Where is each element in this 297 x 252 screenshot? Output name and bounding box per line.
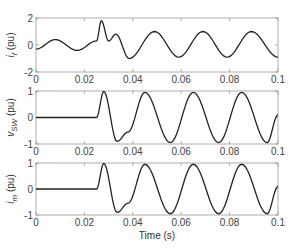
x-tick-label: 0.1 — [271, 146, 285, 157]
x-tick-label: 0.04 — [123, 146, 143, 157]
y-tick-label: 0 — [27, 184, 33, 195]
x-tick-label: 0.02 — [75, 74, 95, 85]
x-tick-label: 0.1 — [271, 217, 285, 228]
y-tick-label: 2 — [27, 13, 33, 24]
data-line — [36, 164, 278, 214]
subplot-3: 00.020.040.060.080.110-1im (pu)Time (s) — [5, 158, 285, 242]
y-tick-label: -2 — [24, 67, 33, 78]
x-tick-label: 0.04 — [123, 74, 143, 85]
y-tick-label: 1 — [27, 86, 33, 97]
data-line — [36, 92, 278, 143]
subplot-2: 00.020.040.060.080.110-1vSW (pu) — [5, 86, 285, 158]
y-tick-label: 1 — [27, 158, 33, 169]
y-axis-label: im (pu) — [5, 174, 19, 203]
x-tick-label: 0.08 — [220, 74, 240, 85]
x-tick-label: 0.06 — [171, 217, 191, 228]
x-tick-label: 0 — [33, 74, 39, 85]
axes-box — [36, 18, 278, 72]
data-line — [36, 21, 278, 59]
x-axis-label: Time (s) — [139, 230, 175, 241]
x-tick-label: 0.02 — [75, 217, 95, 228]
x-tick-label: 0.06 — [171, 74, 191, 85]
x-tick-label: 0.08 — [220, 217, 240, 228]
x-tick-label: 0.04 — [123, 217, 143, 228]
subplot-1: 00.020.040.060.080.120-2if (pu) — [5, 13, 285, 86]
y-axis-label: if (pu) — [5, 32, 19, 57]
x-tick-label: 0.1 — [271, 74, 285, 85]
y-tick-label: 0 — [27, 40, 33, 51]
x-tick-label: 0 — [33, 146, 39, 157]
x-tick-label: 0.08 — [220, 146, 240, 157]
y-tick-label: -1 — [24, 139, 33, 150]
y-tick-label: 0 — [27, 112, 33, 123]
x-tick-label: 0.02 — [75, 146, 95, 157]
chart-figure: 00.020.040.060.080.120-2if (pu)00.020.04… — [0, 0, 297, 252]
x-tick-label: 0 — [33, 217, 39, 228]
x-tick-label: 0.06 — [171, 146, 191, 157]
y-axis-label: vSW (pu) — [5, 98, 19, 136]
y-tick-label: -1 — [24, 210, 33, 221]
